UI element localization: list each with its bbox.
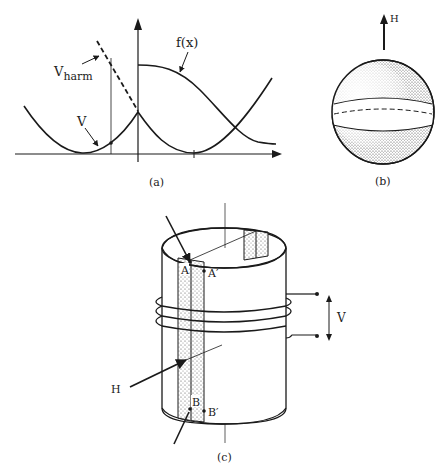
label-vharm: Vharm (53, 64, 93, 83)
point-a-prime (202, 269, 206, 273)
label-h-field-b: H (390, 13, 399, 24)
field-h-arrow-icon (380, 14, 388, 24)
panel-a: f(x) Vharm V (a) (15, 18, 282, 189)
vharm-pointer (82, 56, 99, 64)
label-a-prime: A′ (207, 267, 219, 280)
caption-a: (a) (149, 176, 164, 189)
function-curve-f (138, 65, 276, 144)
point-b-prime (202, 409, 206, 413)
figure-canvas: f(x) Vharm V (a) H (b) (0, 0, 436, 472)
label-v-potential: V (76, 114, 87, 129)
caption-c: (c) (217, 451, 232, 464)
coil-lead-bottom (286, 335, 316, 338)
label-h-field-c: H (111, 383, 121, 396)
terminal-bottom[interactable] (315, 334, 319, 338)
potential-curve-v (24, 78, 272, 153)
caption-b: (b) (375, 175, 391, 188)
v-pointer (85, 128, 98, 146)
label-voltage: V (336, 311, 346, 325)
panel-b: H (b) (330, 13, 434, 188)
label-vharm-sub: harm (63, 70, 93, 83)
panel-c: A A′ V H B B′ (c) (111, 203, 346, 464)
label-b-prime: B′ (208, 406, 219, 419)
equatorial-band (333, 98, 433, 131)
terminal-top[interactable] (315, 292, 319, 296)
label-a: A (180, 264, 190, 277)
point-on-v (109, 141, 113, 145)
y-axis-arrow-icon (134, 18, 142, 30)
f-pointer (180, 52, 188, 72)
label-f-of-x: f(x) (176, 35, 198, 50)
harmonic-approx-dashed-line (97, 41, 138, 111)
x-axis-arrow-icon (272, 150, 282, 158)
label-b: B (192, 396, 200, 409)
label-vharm-main: V (53, 64, 64, 79)
voltage-arrow-up-icon (326, 295, 332, 302)
voltage-arrow-down-icon (326, 334, 332, 341)
